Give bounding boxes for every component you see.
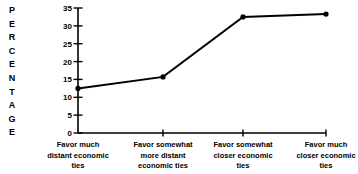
data-point-marker [240, 14, 245, 19]
chart-container: P E R C E N T A G E 35 30 25 20 15 10 5 … [0, 0, 358, 174]
x-category-label: Favor much distant economic ties [33, 140, 123, 172]
x-category-label: Favor somewhat more distant economic tie… [118, 140, 208, 172]
x-category-label: Favor much closer economic ties [281, 140, 358, 172]
x-category-label: Favor somewhat closer economic ties [198, 140, 288, 172]
data-point-marker [75, 86, 80, 91]
data-point-marker [323, 12, 328, 17]
data-point-marker [160, 74, 165, 79]
data-series-line [78, 14, 326, 88]
